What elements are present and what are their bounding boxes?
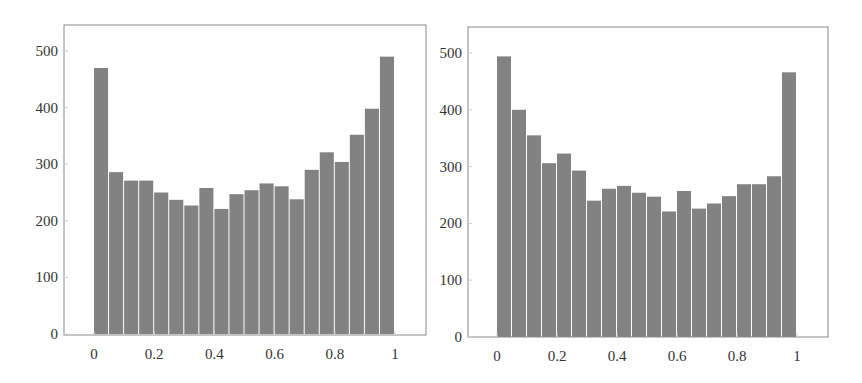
histogram-right-svg: 010020030040050000.20.40.60.81: [0, 0, 862, 383]
histogram-bar: [722, 196, 736, 337]
histogram-bar: [752, 184, 766, 337]
histogram-bar: [602, 189, 616, 337]
histogram-bar: [527, 135, 541, 337]
x-tick-label: 0.8: [728, 348, 747, 364]
x-tick-label: 0.4: [608, 348, 627, 364]
x-tick-label: 0: [493, 348, 501, 364]
x-tick-label: 0.2: [548, 348, 567, 364]
histogram-bar: [707, 204, 721, 337]
histogram-bars: [497, 56, 796, 337]
histogram-bar: [617, 186, 631, 337]
histogram-bar: [662, 211, 676, 337]
y-tick-label: 300: [440, 159, 463, 175]
y-tick-label: 0: [455, 329, 463, 345]
histogram-bar: [572, 171, 586, 337]
x-tick-label: 0.6: [668, 348, 687, 364]
histogram-bar: [512, 110, 526, 337]
histogram-bar: [587, 201, 601, 337]
histogram-bar: [557, 154, 571, 337]
histogram-bar: [677, 191, 691, 337]
histogram-bar: [632, 193, 646, 337]
x-axis: 00.20.40.60.81: [493, 333, 801, 364]
x-tick-label: 1: [793, 348, 801, 364]
histogram-bar: [692, 209, 706, 337]
histogram-bar: [782, 72, 796, 337]
y-tick-label: 200: [440, 215, 463, 231]
y-axis: 0100200300400500: [440, 45, 473, 345]
histogram-right: 010020030040050000.20.40.60.81: [0, 0, 862, 383]
histogram-bar: [542, 163, 556, 337]
histogram-bar: [497, 56, 511, 337]
y-tick-label: 100: [440, 272, 463, 288]
y-tick-label: 500: [440, 45, 463, 61]
histogram-bar: [647, 197, 661, 337]
y-tick-label: 400: [440, 102, 463, 118]
histogram-bar: [767, 176, 781, 337]
histogram-bar: [737, 184, 751, 337]
